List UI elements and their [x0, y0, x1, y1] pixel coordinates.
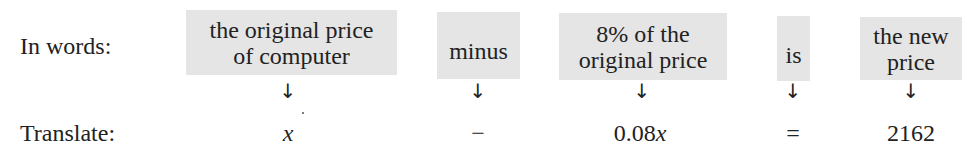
row-label-translate: Translate:	[20, 121, 115, 145]
expression-0-08x: 0.08x	[614, 121, 667, 145]
phrase-line: the original price	[210, 17, 374, 43]
phrase-line: the new	[873, 23, 948, 49]
down-arrow-icon: ↓	[278, 80, 298, 102]
phrase-box-minus: minus	[437, 12, 520, 79]
row-label-in-words: In words:	[20, 34, 111, 58]
expression-minus-sign: −	[471, 121, 485, 145]
down-arrow-icon: ↓	[632, 80, 652, 102]
down-arrow-icon: ↓	[901, 80, 921, 102]
down-arrow-icon: ↓	[783, 80, 803, 102]
expression-equals-sign: =	[786, 121, 800, 145]
phrase-box-original-price: the original price of computer	[186, 10, 397, 75]
phrase-line: minus	[449, 38, 508, 64]
phrase-line: 8% of the	[579, 21, 708, 47]
down-arrow-icon: ↓	[468, 80, 488, 102]
phrase-line: original price	[579, 47, 708, 73]
phrase-line: price	[873, 49, 948, 75]
phrase-box-eight-percent: 8% of the original price	[559, 13, 727, 80]
phrase-box-is: is	[777, 16, 810, 81]
phrase-line: is	[785, 42, 801, 68]
stray-dot	[302, 112, 304, 114]
expression-x: x	[283, 121, 294, 145]
phrase-box-new-price: the new price	[860, 17, 962, 80]
expression-2162: 2162	[887, 121, 935, 145]
phrase-line: of computer	[210, 43, 374, 69]
